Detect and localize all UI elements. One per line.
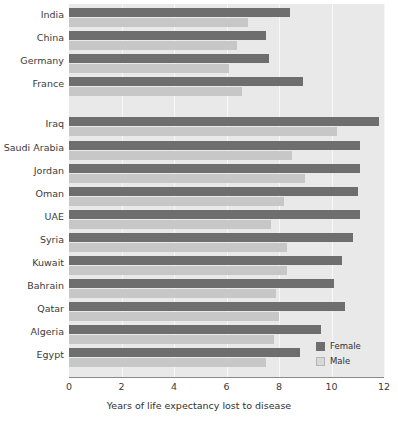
bar-female — [69, 54, 269, 63]
x-tick-label: 4 — [159, 381, 189, 392]
bar-female — [69, 233, 353, 242]
category-label: Syria — [0, 234, 64, 245]
x-tick-label: 10 — [317, 381, 347, 392]
bar-male — [69, 243, 287, 252]
bar-male — [69, 64, 229, 73]
bar-male — [69, 18, 248, 27]
bar-female — [69, 256, 342, 265]
category-label: Egypt — [0, 349, 64, 360]
category-label: China — [0, 32, 64, 43]
bar-male — [69, 127, 337, 136]
bar-female — [69, 77, 303, 86]
x-tick-label: 12 — [369, 381, 398, 392]
bar-male — [69, 335, 274, 344]
category-label: Oman — [0, 188, 64, 199]
bar-female — [69, 210, 360, 219]
category-label: Qatar — [0, 303, 64, 314]
bar-female — [69, 8, 290, 17]
bar-female — [69, 348, 300, 357]
bar-female — [69, 325, 321, 334]
category-label: Germany — [0, 55, 64, 66]
bar-male — [69, 197, 284, 206]
x-tick-label: 6 — [212, 381, 242, 392]
category-label: UAE — [0, 211, 64, 222]
x-tick-label: 8 — [264, 381, 294, 392]
bar-male — [69, 151, 292, 160]
bar-female — [69, 164, 360, 173]
bar-male — [69, 174, 305, 183]
category-label: France — [0, 78, 64, 89]
bar-female — [69, 141, 360, 150]
category-label: Iraq — [0, 118, 64, 129]
bar-female — [69, 279, 334, 288]
category-label: Jordan — [0, 165, 64, 176]
bar-male — [69, 358, 266, 367]
bar-male — [69, 312, 279, 321]
bar-male — [69, 266, 287, 275]
category-label: Saudi Arabia — [0, 142, 64, 153]
category-label: Algeria — [0, 326, 64, 337]
category-label: Kuwait — [0, 257, 64, 268]
bar-female — [69, 187, 358, 196]
bar-male — [69, 289, 276, 298]
bar-male — [69, 41, 237, 50]
bar-female — [69, 31, 266, 40]
category-label: India — [0, 9, 64, 20]
bar-male — [69, 220, 271, 229]
x-tick-label: 0 — [54, 381, 84, 392]
category-label: Bahrain — [0, 280, 64, 291]
bar-female — [69, 302, 345, 311]
bar-male — [69, 87, 242, 96]
horizontal-bar-chart: Years of life expectancy lost to disease… — [0, 0, 398, 423]
x-tick-label: 2 — [107, 381, 137, 392]
x-axis-title: Years of life expectancy lost to disease — [0, 400, 398, 411]
x-axis-line — [69, 377, 384, 378]
bar-female — [69, 117, 379, 126]
